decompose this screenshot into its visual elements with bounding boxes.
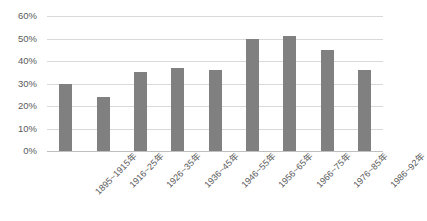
bar[interactable] xyxy=(59,84,72,152)
y-axis-tick-label: 50% xyxy=(18,34,37,44)
bar[interactable] xyxy=(171,68,184,151)
y-axis: 60%50%40%30%20%10%0% xyxy=(0,16,42,151)
bar[interactable] xyxy=(358,70,371,151)
bar[interactable] xyxy=(283,36,296,151)
bar[interactable] xyxy=(246,39,259,152)
x-axis-tick-label: 1926~35年 xyxy=(165,152,203,190)
bar[interactable] xyxy=(97,97,110,151)
x-axis-tick-label: 1976~85年 xyxy=(352,152,390,190)
bar[interactable] xyxy=(209,70,222,151)
x-axis: 1895~1915年1916~25年1926~35年1936~45年1946~5… xyxy=(47,152,383,210)
x-axis-tick-label: 1956~65年 xyxy=(277,152,315,190)
bar[interactable] xyxy=(134,72,147,151)
y-axis-tick-label: 40% xyxy=(18,56,37,66)
y-axis-tick-label: 0% xyxy=(23,146,37,156)
bar-series xyxy=(47,16,383,151)
y-axis-tick-label: 20% xyxy=(18,101,37,111)
x-axis-tick-label: 1946~55年 xyxy=(240,152,278,190)
x-axis-tick-label: 1895~1915年 xyxy=(94,152,139,197)
y-axis-tick-label: 60% xyxy=(18,11,37,21)
plot-area xyxy=(47,16,383,151)
y-axis-tick-label: 10% xyxy=(18,124,37,134)
y-axis-tick-label: 30% xyxy=(18,79,37,89)
bar[interactable] xyxy=(321,50,334,151)
x-axis-tick-label: 1966~75年 xyxy=(315,152,353,190)
x-axis-tick-label: 1986~92年 xyxy=(389,152,427,190)
x-axis-tick-label: 1936~45年 xyxy=(203,152,241,190)
